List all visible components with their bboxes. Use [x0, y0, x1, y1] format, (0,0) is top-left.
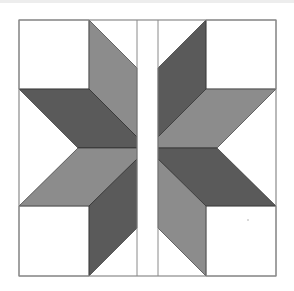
- quilt-block: [0, 0, 294, 291]
- corner-square-bottom-right: [206, 206, 276, 276]
- speck: [247, 219, 248, 220]
- corner-square-top-right: [206, 20, 276, 89]
- corner-square-bottom-left: [19, 206, 89, 276]
- corner-square-top-left: [19, 20, 89, 89]
